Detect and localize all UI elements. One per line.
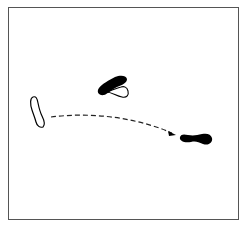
arrowhead-icon <box>168 131 176 136</box>
right-filled-shape <box>180 134 212 145</box>
diagram-canvas <box>0 0 251 228</box>
left-outline-shape <box>31 97 44 128</box>
dashed-arrow-path <box>51 115 172 133</box>
